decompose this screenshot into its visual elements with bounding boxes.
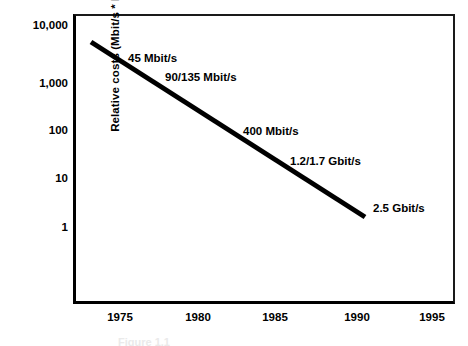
y-axis-title: Relative costs (Mbit/s * km) xyxy=(109,0,129,181)
chart-screenshot: Relative costs (Mbit/s * km) 10,000 1,00… xyxy=(0,0,468,346)
x-tick-label: 1980 xyxy=(168,311,228,323)
annotation-2500mbit: 2.5 Gbit/s xyxy=(373,202,425,214)
x-tick-label: 1975 xyxy=(90,311,150,323)
y-tick-label: 100 xyxy=(6,124,68,136)
annotation-1200-1700mbit: 1.2/1.7 Gbit/s xyxy=(290,155,361,167)
y-axis-tick-labels: 10,000 1,000 100 10 1 xyxy=(0,0,68,346)
annotation-400mbit: 400 Mbit/s xyxy=(243,125,299,137)
x-tick-label: 1985 xyxy=(245,311,305,323)
figure-caption: Figure 1.1 xyxy=(118,336,268,346)
annotation-45mbit: 45 Mbit/s xyxy=(128,52,177,64)
y-tick-label: 1 xyxy=(6,221,68,233)
x-tick-label: 1990 xyxy=(327,311,387,323)
y-tick-label: 10 xyxy=(6,172,68,184)
x-tick-label: 1995 xyxy=(402,311,462,323)
y-tick-label: 1,000 xyxy=(6,77,68,89)
x-axis-tick-labels: 1975 1980 1985 1990 1995 xyxy=(0,311,468,331)
y-tick-label: 10,000 xyxy=(6,19,68,31)
annotation-90-135mbit: 90/135 Mbit/s xyxy=(165,71,237,83)
